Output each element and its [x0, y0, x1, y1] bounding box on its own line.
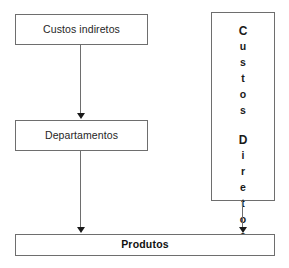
- node-produtos-label: Produtos: [121, 239, 169, 251]
- node-custos-indiretos-label: Custos indiretos: [43, 24, 120, 36]
- vertical-char: o: [240, 89, 246, 105]
- cost-allocation-flowchart: Custos indiretos Departamentos C u s t o…: [0, 0, 289, 268]
- vertical-char: D: [239, 134, 248, 150]
- vertical-char: C: [239, 25, 248, 41]
- vertical-char: r: [241, 166, 245, 182]
- vertical-char: u: [240, 41, 246, 57]
- arrowhead-icon: [77, 227, 85, 233]
- node-custos-indiretos: Custos indiretos: [15, 14, 148, 45]
- node-departamentos: Departamentos: [15, 120, 148, 151]
- arrow-shaft: [80, 45, 81, 113]
- node-produtos: Produtos: [15, 234, 275, 256]
- vertical-char: e: [240, 182, 246, 198]
- arrowhead-icon: [239, 227, 247, 233]
- arrowhead-icon: [77, 113, 85, 119]
- arrow-shaft: [242, 201, 243, 227]
- arrow-shaft: [80, 151, 81, 227]
- vertical-char: t: [241, 73, 245, 89]
- node-departamentos-label: Departamentos: [45, 130, 118, 142]
- vertical-char: s: [240, 57, 246, 73]
- vertical-word-custos: C u s t o s: [239, 25, 248, 121]
- vertical-char: s: [240, 105, 246, 121]
- node-custos-diretos: C u s t o s D i r e t o s: [211, 12, 275, 201]
- vertical-char: i: [242, 150, 245, 166]
